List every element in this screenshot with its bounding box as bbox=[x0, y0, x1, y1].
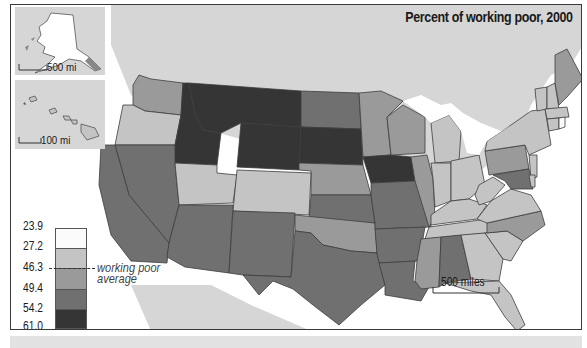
hawaii-inset: 100 mi bbox=[15, 80, 105, 149]
legend-swatch-1 bbox=[55, 228, 87, 249]
state-sd[interactable] bbox=[299, 127, 363, 165]
average-label: working poor average bbox=[97, 262, 160, 284]
state-ia[interactable] bbox=[363, 155, 415, 183]
legend-break-2: 27.2 bbox=[23, 239, 43, 253]
map-frame: 500 mi 100 mi Percent of working poor, 2… bbox=[10, 4, 582, 330]
state-nm[interactable] bbox=[229, 211, 295, 277]
legend-swatch-4 bbox=[55, 289, 87, 310]
state-vt[interactable] bbox=[535, 87, 547, 111]
map-title: Percent of working poor, 2000 bbox=[406, 9, 573, 25]
state-ct[interactable] bbox=[547, 118, 559, 131]
average-line bbox=[49, 268, 95, 269]
alaska-scale-label: 500 mi bbox=[47, 61, 76, 73]
footer-bar bbox=[10, 336, 582, 348]
legend: 23.9 27.2 46.3 49.4 54.2 61.0 working po… bbox=[11, 219, 151, 329]
state-az[interactable] bbox=[167, 205, 233, 273]
alaska-inset: 500 mi bbox=[15, 7, 105, 75]
main-scale-label: 500 miles bbox=[441, 275, 485, 289]
legend-break-6: 61.0 bbox=[23, 319, 43, 330]
legend-break-4: 49.4 bbox=[23, 281, 43, 295]
legend-swatch-3 bbox=[55, 268, 87, 290]
legend-break-5: 54.2 bbox=[23, 301, 43, 315]
legend-swatch-2 bbox=[55, 248, 87, 269]
state-co[interactable] bbox=[233, 170, 311, 215]
hawaii-scale-label: 100 mi bbox=[41, 134, 70, 146]
state-nd[interactable] bbox=[301, 91, 361, 129]
legend-break-3: 46.3 bbox=[23, 260, 43, 274]
state-ri[interactable] bbox=[559, 117, 565, 129]
legend-swatch-5 bbox=[55, 309, 87, 329]
state-ma[interactable] bbox=[545, 107, 569, 119]
legend-break-1: 23.9 bbox=[23, 219, 43, 233]
state-wy[interactable] bbox=[237, 123, 301, 170]
